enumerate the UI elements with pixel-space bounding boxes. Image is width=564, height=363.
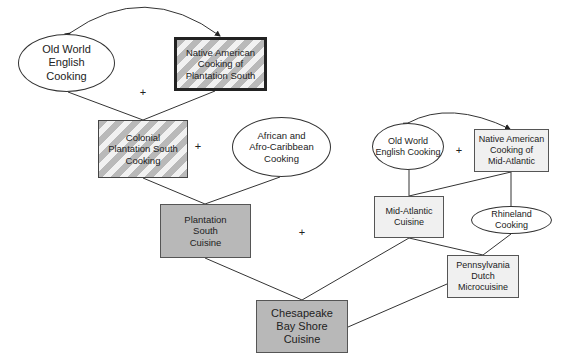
- node-label: South: [184, 225, 226, 236]
- node-label: Afro-Caribbean: [249, 141, 313, 152]
- node-label: Colonial: [108, 132, 178, 143]
- node-old-world-english-cooking-south: Old WorldEnglishCooking: [18, 34, 115, 92]
- node-label: Dutch: [456, 271, 510, 282]
- node-plantation-south-cuisine: PlantationSouthCuisine: [160, 204, 251, 258]
- node-label: Native American: [186, 47, 256, 58]
- node-african-afro-caribbean-cooking: African andAfro-CaribbeanCooking: [232, 117, 331, 177]
- node-native-american-cooking-midatlantic: Native AmericanCooking ofMid-Atlantic: [474, 129, 549, 172]
- node-label: Pennsylvania: [456, 260, 510, 271]
- node-label: Old World: [42, 43, 91, 56]
- node-label: Cuisine: [385, 217, 432, 228]
- node-label: Old World: [375, 136, 440, 147]
- node-colonial-plantation-south-cooking: ColonialPlantation SouthCooking: [98, 120, 188, 178]
- node-label: Native American: [479, 134, 545, 145]
- node-pennsylvania-dutch-microcuisine: PennsylvaniaDutchMicrocuisine: [447, 255, 519, 298]
- node-rhineland-cooking: RhinelandCooking: [471, 206, 552, 234]
- node-chesapeake-bay-shore-cuisine: ChesapeakeBay ShoreCuisine: [256, 300, 348, 353]
- node-label: Chesapeake: [271, 307, 333, 320]
- node-label: Cooking: [42, 70, 91, 83]
- node-label: Cuisine: [271, 333, 333, 346]
- node-old-world-english-cooking-midatlantic: Old WorldEnglish Cooking: [372, 123, 444, 170]
- plus-sign: +: [140, 86, 146, 98]
- node-label: Plantation South: [186, 70, 256, 81]
- node-mid-atlantic-cuisine: Mid-AtlanticCuisine: [374, 196, 444, 238]
- node-label: Mid-Atlantic: [479, 156, 545, 167]
- node-label: Cooking: [249, 153, 313, 164]
- node-label: English Cooking: [375, 147, 440, 158]
- node-label: Rhineland: [491, 209, 532, 220]
- node-label: African and: [249, 130, 313, 141]
- node-native-american-cooking-plantation-south: Native AmericanCooking ofPlantation Sout…: [174, 37, 267, 91]
- node-label: Microcuisine: [456, 282, 510, 293]
- node-label: Cooking: [491, 220, 532, 231]
- node-label: Cooking of: [186, 58, 256, 69]
- node-label: Cooking of: [479, 145, 545, 156]
- plus-sign: +: [195, 140, 201, 152]
- plus-sign: +: [299, 226, 305, 238]
- node-label: Cooking: [108, 155, 178, 166]
- plus-sign: +: [456, 144, 462, 156]
- node-label: Cuisine: [184, 237, 226, 248]
- node-label: Mid-Atlantic: [385, 206, 432, 217]
- node-label: Bay Shore: [271, 320, 333, 333]
- node-label: Plantation: [184, 214, 226, 225]
- node-label: Plantation South: [108, 143, 178, 154]
- node-label: English: [42, 56, 91, 69]
